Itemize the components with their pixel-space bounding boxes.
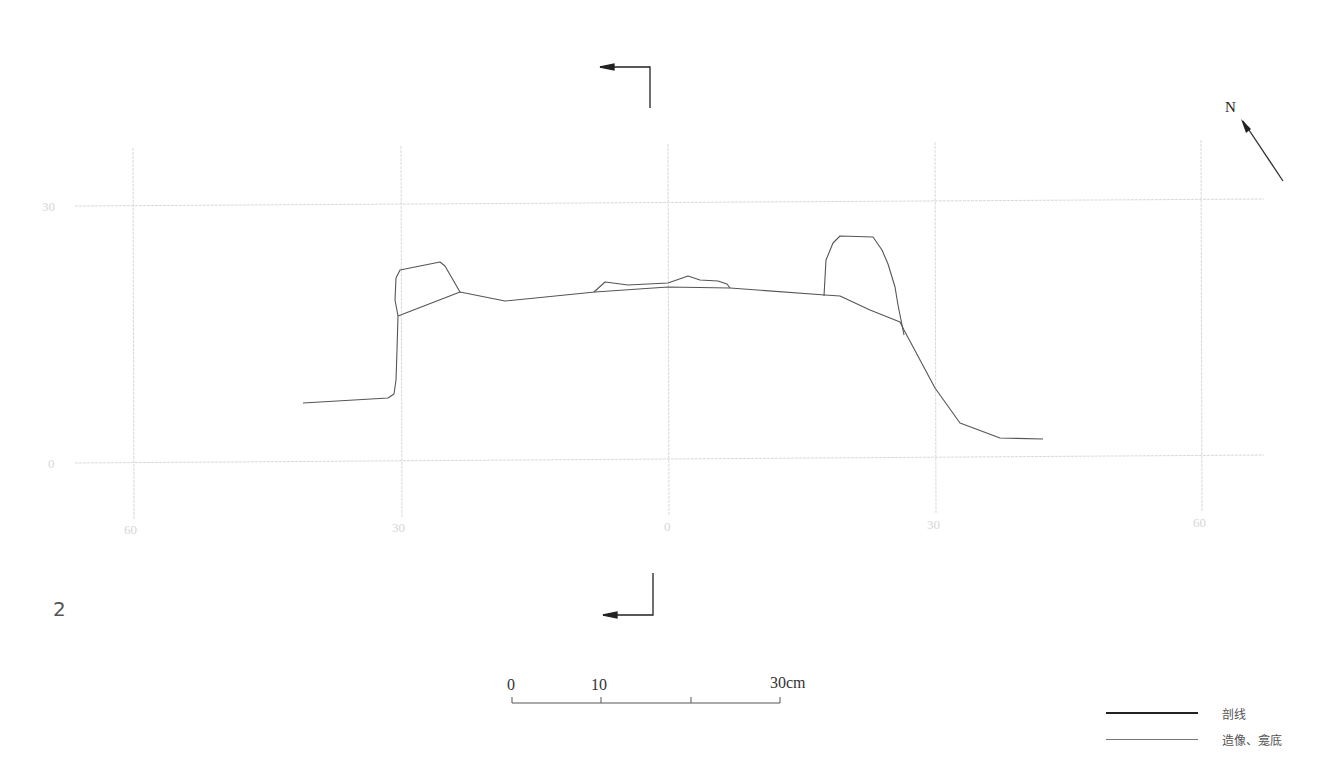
north-label: N [1225,99,1236,115]
scale-label-0: 0 [507,676,515,693]
legend-swatch-thin [1106,739,1198,740]
legend: 剖线 造像、龛底 [1106,700,1282,752]
x-label-0: 0 [664,519,671,534]
section-drawing: 30 0 60 30 0 30 60 N 0 10 30cm [0,0,1340,774]
x-label-right-30: 30 [927,517,940,532]
grid-line-y30 [75,199,1264,206]
scale-bar: 0 10 30cm [507,674,806,703]
grid-line-y0 [75,455,1264,463]
section-cut-bottom [603,573,653,618]
grid-line-x60 [1201,140,1202,512]
legend-swatch-thick [1106,712,1198,714]
grid-line-x30 [935,142,936,514]
figure-number: 2 [53,597,66,621]
section-cut-arrow-icon [603,612,617,618]
x-label-left-60: 60 [124,522,137,537]
grid [75,140,1264,520]
left-relief [395,262,460,316]
section-cut-top [600,64,650,108]
profile-outline [303,236,1043,439]
grid-line-x-30 [401,146,402,518]
scale-label-10: 10 [591,676,607,693]
north-arrow-icon: N [1225,99,1283,181]
legend-item-statue-niche: 造像、龛底 [1106,726,1282,752]
base-profile-line [303,287,1043,439]
x-label-right-60: 60 [1193,515,1206,530]
legend-label: 造像、龛底 [1222,731,1282,748]
legend-item-section-line: 剖线 [1106,700,1282,726]
right-relief [824,236,904,335]
x-label-left-30: 30 [392,520,405,535]
grid-line-x-60 [133,148,134,520]
grid-line-x0 [668,144,669,516]
legend-label: 剖线 [1222,705,1246,722]
section-cut-arrow-icon [600,64,614,70]
scale-label-30cm: 30cm [770,674,806,691]
y-label-30: 30 [42,199,55,214]
y-label-0: 0 [48,456,55,471]
center-relief [594,276,730,292]
